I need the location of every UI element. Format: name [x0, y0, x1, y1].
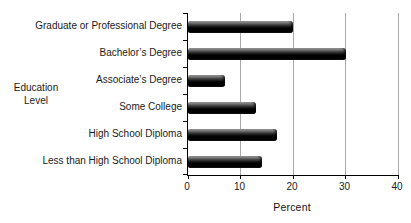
- x-tick-label-20: 20: [280, 181, 304, 192]
- x-tick-mark-0: [188, 175, 189, 179]
- gridline-10: [240, 13, 241, 175]
- category-label: High School Diploma: [0, 128, 182, 139]
- y-tick-mark-1: [183, 40, 187, 41]
- bar-some-college: [188, 102, 256, 114]
- category-label: Some College: [0, 101, 182, 112]
- bar-bachelor-s-degree: [188, 48, 346, 60]
- x-tick-label-10: 10: [228, 181, 252, 192]
- y-tick-mark-2: [183, 67, 187, 68]
- y-tick-mark-3: [183, 94, 187, 95]
- y-tick-mark-5: [183, 148, 187, 149]
- y-tick-mark-0: [183, 13, 187, 14]
- x-tick-mark-30: [345, 175, 346, 179]
- bar-associate-s-degree: [188, 75, 225, 87]
- gridline-30: [345, 13, 346, 175]
- category-label: Graduate or Professional Degree: [0, 20, 182, 31]
- bar-graduate-or-professional-degree: [188, 21, 293, 33]
- bar-high-school-diploma: [188, 129, 277, 141]
- x-tick-label-0: 0: [175, 181, 199, 192]
- x-tick-mark-40: [398, 175, 399, 179]
- y-tick-mark-6: [183, 174, 187, 175]
- x-tick-label-40: 40: [385, 181, 409, 192]
- x-axis-title: Percent: [187, 201, 397, 213]
- bar-less-than-high-school-diploma: [188, 156, 262, 168]
- plot-area: [187, 13, 398, 176]
- x-tick-mark-20: [293, 175, 294, 179]
- category-label: Bachelor’s Degree: [0, 47, 182, 58]
- category-label: Less than High School Diploma: [0, 155, 182, 166]
- gridline-20: [293, 13, 294, 175]
- x-tick-label-30: 30: [333, 181, 357, 192]
- bar-chart: Education Level Graduate or Professional…: [0, 0, 411, 223]
- y-tick-mark-4: [183, 121, 187, 122]
- gridline-40: [398, 13, 399, 175]
- x-tick-mark-10: [240, 175, 241, 179]
- category-label: Associate’s Degree: [0, 74, 182, 85]
